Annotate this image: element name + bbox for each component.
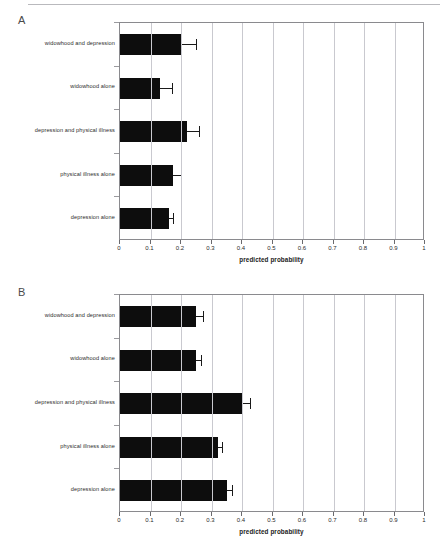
x-tick-mark bbox=[180, 240, 181, 244]
x-tick-label: 0.7 bbox=[328, 517, 336, 523]
bar bbox=[120, 306, 196, 327]
x-tick-mark bbox=[394, 240, 395, 244]
gridline-0.9 bbox=[395, 295, 396, 511]
bar bbox=[120, 165, 173, 186]
bar-row bbox=[120, 67, 423, 111]
gridline-0.6 bbox=[303, 295, 304, 511]
x-tick-label: 0.5 bbox=[267, 245, 275, 251]
x-tick-label: 0.3 bbox=[206, 245, 214, 251]
panel-b: B widowhood and depressionwidowhood alon… bbox=[0, 272, 443, 557]
x-tick-mark bbox=[333, 512, 334, 516]
category-label: widowhood alone bbox=[3, 84, 115, 90]
bar-row bbox=[120, 23, 423, 67]
x-tick-mark bbox=[363, 240, 364, 244]
x-tick-mark bbox=[180, 512, 181, 516]
category-label: widowhood alone bbox=[3, 356, 115, 362]
bar-row bbox=[120, 339, 423, 383]
bar bbox=[120, 121, 187, 142]
gridline-0.7 bbox=[334, 23, 335, 239]
bar bbox=[120, 78, 160, 99]
bar-row bbox=[120, 197, 423, 241]
category-label: physical illness alone bbox=[3, 444, 115, 450]
category-label: widowhood and depression bbox=[3, 313, 115, 319]
panel-a-x-axis: predicted probability 00.10.20.30.40.50.… bbox=[119, 240, 424, 270]
gridline-0.2 bbox=[181, 295, 182, 511]
gridline-0.1 bbox=[151, 295, 152, 511]
bar-row bbox=[120, 295, 423, 339]
x-tick-mark bbox=[333, 240, 334, 244]
bar bbox=[120, 437, 218, 458]
x-tick-mark bbox=[150, 240, 151, 244]
x-tick-label: 0.5 bbox=[267, 517, 275, 523]
error-bar-cap bbox=[199, 126, 200, 137]
panel-b-bars bbox=[120, 295, 423, 511]
x-tick-label: 0.3 bbox=[206, 517, 214, 523]
x-tick-mark bbox=[241, 240, 242, 244]
x-tick-mark bbox=[150, 512, 151, 516]
x-tick-mark bbox=[272, 240, 273, 244]
x-tick-label: 0.4 bbox=[237, 245, 245, 251]
error-bar bbox=[173, 175, 181, 176]
category-label: depression and physical illness bbox=[3, 400, 115, 406]
error-bar-cap bbox=[232, 485, 233, 496]
x-tick-label: 0.6 bbox=[298, 517, 306, 523]
bar-row bbox=[120, 382, 423, 426]
category-label: depression alone bbox=[3, 487, 115, 493]
x-tick-mark bbox=[119, 512, 120, 516]
x-tick-mark bbox=[241, 512, 242, 516]
error-bar bbox=[160, 88, 172, 89]
x-tick-mark bbox=[302, 240, 303, 244]
panel-a-category-labels: widowhood and depressionwidowhood aloned… bbox=[0, 22, 115, 240]
panel-a: A widowhood and depressionwidowhood alon… bbox=[0, 0, 443, 278]
x-tick-label: 0.7 bbox=[328, 245, 336, 251]
gridline-0.6 bbox=[303, 23, 304, 239]
gridline-0.4 bbox=[242, 23, 243, 239]
gridline-0.9 bbox=[395, 23, 396, 239]
error-bar-cap bbox=[172, 83, 173, 94]
x-tick-label: 0.4 bbox=[237, 517, 245, 523]
x-tick-label: 0.9 bbox=[389, 517, 397, 523]
error-bar bbox=[196, 316, 203, 317]
x-tick-mark bbox=[394, 512, 395, 516]
gridline-0.2 bbox=[181, 23, 182, 239]
gridline-0.7 bbox=[334, 295, 335, 511]
panel-b-x-axis: predicted probability 00.10.20.30.40.50.… bbox=[119, 512, 424, 542]
panel-b-x-axis-title: predicted probability bbox=[119, 528, 424, 535]
error-bar bbox=[242, 403, 250, 404]
gridline-0.5 bbox=[273, 295, 274, 511]
error-bar-cap bbox=[173, 213, 174, 224]
category-label: depression and physical illness bbox=[3, 128, 115, 134]
x-tick-label: 0.1 bbox=[145, 245, 153, 251]
panel-a-plot-area bbox=[119, 22, 424, 240]
gridline-0.8 bbox=[364, 295, 365, 511]
gridline-0.4 bbox=[242, 295, 243, 511]
x-tick-label: 1 bbox=[422, 517, 425, 523]
x-tick-label: 0.2 bbox=[176, 517, 184, 523]
x-tick-label: 0 bbox=[117, 245, 120, 251]
category-label: widowhood and depression bbox=[3, 41, 115, 47]
gridline-0.8 bbox=[364, 23, 365, 239]
error-bar bbox=[187, 131, 199, 132]
x-tick-mark bbox=[424, 512, 425, 516]
category-label: depression alone bbox=[3, 215, 115, 221]
gridline-0.1 bbox=[151, 23, 152, 239]
x-tick-mark bbox=[119, 240, 120, 244]
bar-row bbox=[120, 110, 423, 154]
gridline-0.3 bbox=[212, 295, 213, 511]
x-tick-label: 0.2 bbox=[176, 245, 184, 251]
panel-b-plot-area bbox=[119, 294, 424, 512]
x-tick-mark bbox=[211, 512, 212, 516]
x-tick-mark bbox=[363, 512, 364, 516]
x-tick-mark bbox=[272, 512, 273, 516]
panel-a-bars bbox=[120, 23, 423, 239]
x-tick-mark bbox=[211, 240, 212, 244]
error-bar-cap bbox=[250, 398, 251, 409]
category-label: physical illness alone bbox=[3, 172, 115, 178]
error-bar-cap bbox=[196, 39, 197, 50]
panel-a-x-axis-title: predicted probability bbox=[119, 256, 424, 263]
error-bar bbox=[181, 44, 196, 45]
x-tick-label: 0.1 bbox=[145, 517, 153, 523]
bar-row bbox=[120, 469, 423, 513]
x-tick-label: 0.8 bbox=[359, 245, 367, 251]
gridline-0.3 bbox=[212, 23, 213, 239]
